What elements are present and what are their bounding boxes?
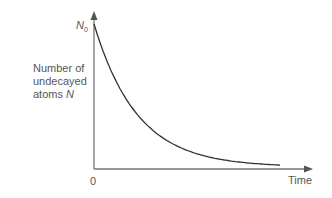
y-axis-arrow-icon [91, 11, 98, 20]
y-axis-label: Number of undecayed atoms N [33, 62, 95, 101]
ylabel-line-1: Number of [33, 62, 95, 75]
decay-curve [94, 24, 280, 165]
x-axis-arrow-icon [304, 166, 313, 173]
x-origin-label: 0 [90, 175, 96, 188]
ylabel-line-3: atoms N [33, 88, 95, 101]
x-axis-label: Time [288, 174, 312, 187]
n0-label: N0 [76, 19, 88, 36]
ylabel-line-2: undecayed [33, 75, 95, 88]
axes [91, 11, 314, 173]
